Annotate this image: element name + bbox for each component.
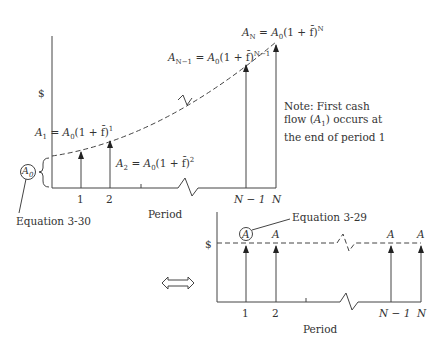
top-tick-label-n-1: N − 1 xyxy=(234,194,265,205)
top-x-axis-label: Period xyxy=(148,209,182,220)
equation-3-29-label: Equation 3-29 xyxy=(292,212,367,223)
label-a1: A1 = A0(1 + f̄)1 xyxy=(35,126,113,141)
bottom-y-axis-label: $ xyxy=(205,239,212,250)
top-tick-label-1: 1 xyxy=(77,194,84,205)
a0-leader-line xyxy=(19,179,26,213)
bottom-tick-label-n: N xyxy=(417,308,426,319)
bottom-tick-label-1: 1 xyxy=(242,308,249,319)
note-text: Note: First cash flow (A1) occurs at the… xyxy=(284,100,386,144)
a0-label: A0 xyxy=(22,166,33,179)
label-a2: A2 = A0(1 + f̄)2 xyxy=(116,157,194,172)
bottom-x-axis-label: Period xyxy=(303,324,337,335)
bottom-a-label-n: A xyxy=(417,229,425,240)
bottom-a-label-1: A xyxy=(242,229,250,240)
bottom-chart xyxy=(217,212,421,310)
top-curve-break xyxy=(178,95,192,105)
bottom-a-label-2: A xyxy=(272,229,280,240)
label-an-1: AN−1 = A0(1 + f̄)N−1 xyxy=(168,51,270,66)
bottom-a-label-n-1: A xyxy=(387,229,395,240)
top-tick-label-n: N xyxy=(272,194,281,205)
a0-brace xyxy=(39,158,49,187)
top-tick-label-2: 2 xyxy=(106,194,113,205)
bottom-tick-label-2: 2 xyxy=(272,308,279,319)
bottom-tick-label-n-1: N − 1 xyxy=(379,308,410,319)
label-an: AN = A0(1 + f̄)N xyxy=(242,26,324,41)
top-y-axis-label: $ xyxy=(38,88,45,99)
equivalence-arrow-icon xyxy=(162,277,194,289)
equation-3-30-label: Equation 3-30 xyxy=(16,216,91,227)
eq-3-29-leader-line xyxy=(252,219,290,230)
